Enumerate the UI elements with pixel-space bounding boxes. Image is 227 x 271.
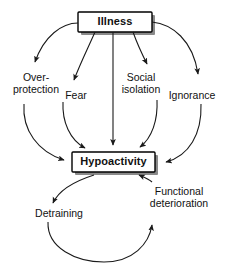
edge-overprotection-to-hypoactivity — [24, 104, 64, 160]
edge-fear-to-hypoactivity — [63, 102, 85, 148]
edge-hypoactivity-to-detraining — [53, 175, 94, 203]
edge-social-isolation-to-hypoactivity — [140, 100, 157, 147]
node-hypoactivity-box — [72, 152, 158, 175]
edge-illness-to-fear — [74, 32, 95, 80]
edge-detraining-to-functional-deterioration — [48, 222, 152, 262]
diagram-canvas: Illness Hypoactivity Over- protection Fe… — [0, 0, 227, 271]
edge-illness-to-social-isolation — [133, 32, 147, 64]
node-illness-box — [78, 12, 155, 35]
edge-functional-deterioration-to-hypoactivity — [139, 175, 152, 182]
edge-illness-to-ignorance — [152, 22, 198, 74]
diagram-graphics — [0, 0, 227, 271]
edge-ignorance-to-hypoactivity — [166, 104, 201, 162]
edge-illness-to-overprotection — [35, 23, 78, 62]
